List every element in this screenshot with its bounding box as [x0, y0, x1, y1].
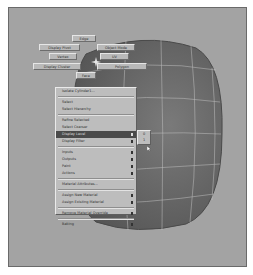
submenu-arrow-icon: [131, 140, 133, 143]
submenu-arrow-icon: [131, 151, 133, 154]
submenu-arrow-icon: [131, 133, 133, 136]
context-menu: Isolate Cylinder1... Select Select Hiera…: [55, 87, 137, 215]
menu-separator: [58, 96, 134, 98]
marking-menu-east[interactable]: UV: [100, 53, 129, 60]
menu-separator: [58, 114, 134, 116]
menu-separator: [58, 178, 134, 180]
menu-item-select[interactable]: Select: [56, 99, 136, 106]
menu-item-display-filter[interactable]: Display Filter: [56, 138, 136, 145]
submenu-item-level-1[interactable]: 1: [138, 137, 150, 143]
menu-item-assign-new-material[interactable]: Assign New Material: [56, 192, 136, 199]
menu-item-label: Inputs: [62, 150, 73, 154]
submenu-arrow-icon: [131, 165, 133, 168]
menu-item-paint[interactable]: Paint: [56, 163, 136, 170]
menu-item-label: Assign New Material: [62, 193, 98, 197]
menu-item-assign-existing-material[interactable]: Assign Existing Material: [56, 199, 136, 206]
marking-menu-north-east[interactable]: Object Mode: [97, 44, 135, 51]
menu-item-actions[interactable]: Actions: [56, 170, 136, 177]
mouse-cursor-icon: [147, 146, 151, 151]
marking-menu-center-icon: [91, 57, 101, 67]
submenu-arrow-icon: [131, 158, 133, 161]
display-level-submenu: 0 1: [137, 130, 151, 145]
marking-menu-north-west[interactable]: Display Pivot: [39, 44, 80, 51]
submenu-arrow-icon: [131, 212, 133, 215]
submenu-arrow-icon: [131, 172, 133, 175]
menu-separator: [58, 146, 134, 148]
menu-separator: [58, 207, 134, 209]
marking-menu-south[interactable]: Face: [76, 72, 96, 79]
menu-item-label: Baking: [62, 222, 74, 226]
menu-item-outputs[interactable]: Outputs: [56, 156, 136, 163]
menu-item-display-level[interactable]: Display Level: [56, 131, 136, 138]
submenu-arrow-icon: [131, 201, 133, 204]
menu-item-label: Assign Existing Material: [62, 200, 104, 204]
menu-item-label: Display Level: [62, 132, 85, 136]
menu-item-baking[interactable]: Baking: [56, 221, 136, 228]
menu-item-isolate[interactable]: Isolate Cylinder1...: [56, 88, 136, 95]
menu-item-label: Remove Material Override: [62, 211, 108, 215]
menu-item-inputs[interactable]: Inputs: [56, 149, 136, 156]
menu-item-label: Display Filter: [62, 139, 85, 143]
menu-item-refine-selected[interactable]: Refine Selected: [56, 117, 136, 124]
menu-item-label: Outputs: [62, 157, 76, 161]
menu-item-select-coarser[interactable]: Select Coarser: [56, 124, 136, 131]
menu-item-select-hierarchy[interactable]: Select Hierarchy: [56, 106, 136, 113]
submenu-arrow-icon: [131, 223, 133, 226]
menu-separator: [58, 218, 134, 220]
submenu-arrow-icon: [131, 194, 133, 197]
marking-menu-south-west[interactable]: Display Cluster: [33, 63, 81, 70]
menu-separator: [58, 189, 134, 191]
menu-item-label: Actions: [62, 171, 75, 175]
marking-menu-south-east[interactable]: Polygon: [97, 63, 147, 70]
marking-menu-west[interactable]: Vertex: [49, 53, 77, 60]
menu-item-label: Paint: [62, 164, 71, 168]
marking-menu-north[interactable]: Edge: [72, 35, 96, 42]
viewport-frame[interactable]: Edge Display Pivot Object Mode Vertex UV…: [8, 7, 247, 267]
menu-item-remove-material-override[interactable]: Remove Material Override: [56, 210, 136, 217]
menu-item-material-attributes[interactable]: Material Attributes...: [56, 181, 136, 188]
